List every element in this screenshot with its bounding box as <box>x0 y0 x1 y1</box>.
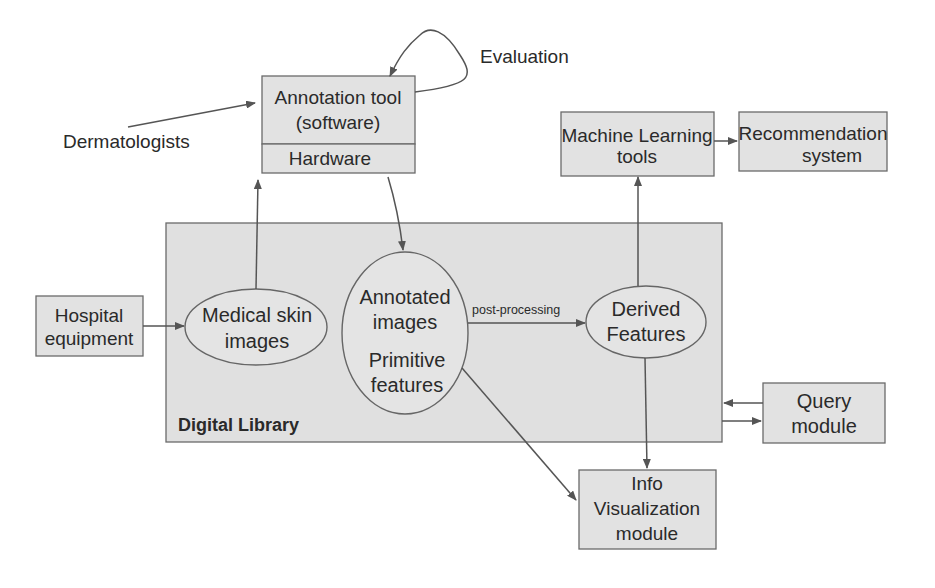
svg-text:Derived: Derived <box>612 298 681 320</box>
svg-text:module: module <box>616 523 678 544</box>
derived-features-node: Derived Features <box>586 286 706 358</box>
svg-text:Hospital: Hospital <box>55 305 124 326</box>
recommendation-system-node: Recommendation system <box>739 112 888 171</box>
svg-text:tools: tools <box>617 146 657 167</box>
svg-text:Medical skin: Medical skin <box>202 304 312 326</box>
svg-text:system: system <box>802 145 862 166</box>
svg-text:equipment: equipment <box>45 328 134 349</box>
post-processing-label: post-processing <box>472 303 560 317</box>
svg-text:Recommendation: Recommendation <box>739 123 888 144</box>
dermatologists-label: Dermatologists <box>63 131 190 152</box>
svg-text:module: module <box>791 415 857 437</box>
svg-text:Machine Learning: Machine Learning <box>561 125 712 146</box>
svg-text:Annotated: Annotated <box>359 286 450 308</box>
annotated-images-node: Annotated images Primitive features <box>342 252 468 414</box>
hospital-equipment-node: Hospital equipment <box>36 296 143 356</box>
svg-text:Info: Info <box>631 473 663 494</box>
svg-text:(software): (software) <box>296 112 380 133</box>
svg-text:features: features <box>371 374 443 396</box>
svg-text:images: images <box>225 330 289 352</box>
edge-dermatologists-to-annotation <box>128 103 255 127</box>
hardware-node: Hardware <box>262 144 415 173</box>
info-visualization-module-node: Info Visualization module <box>579 470 716 549</box>
svg-text:Visualization: Visualization <box>594 498 700 519</box>
svg-text:Query: Query <box>797 390 851 412</box>
medical-skin-images-node: Medical skin images <box>185 289 327 365</box>
annotation-tool-node: Annotation tool (software) <box>262 76 415 144</box>
digital-library-label: Digital Library <box>178 415 299 435</box>
machine-learning-tools-node: Machine Learning tools <box>561 112 714 176</box>
svg-text:Annotation tool: Annotation tool <box>275 87 402 108</box>
query-module-node: Query module <box>763 383 885 443</box>
svg-text:Features: Features <box>607 323 686 345</box>
svg-text:Primitive: Primitive <box>369 349 446 371</box>
system-architecture-diagram: Digital Library Annotation tool (softwar… <box>0 0 935 588</box>
svg-text:Hardware: Hardware <box>289 148 371 169</box>
svg-text:images: images <box>373 311 437 333</box>
evaluation-label: Evaluation <box>480 46 569 67</box>
